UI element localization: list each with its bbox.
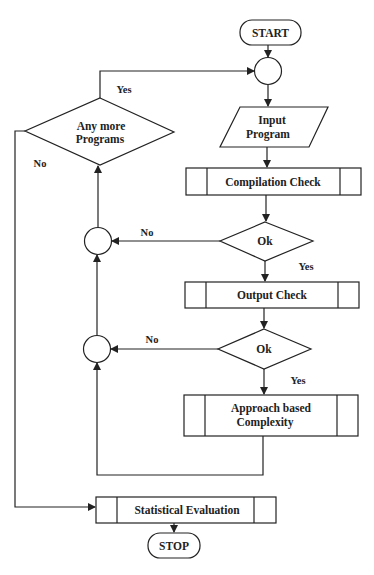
connector-2 [84,336,111,363]
start-label: START [252,27,289,39]
more-label-line2: Programs [76,133,125,146]
ok-decision-2: Ok [218,329,311,369]
input-program-node: Input Program [220,107,328,147]
stop-label: STOP [159,540,189,552]
ok1-no-label: No [141,227,154,238]
start-terminator: START [240,20,301,45]
statistical-evaluation-label: Statistical Evaluation [134,504,240,516]
more-no-label: No [34,158,47,169]
compilation-check-label: Compilation Check [225,176,321,189]
edge-more-no [15,131,95,507]
input-label-line2: Program [246,128,290,141]
ok1-yes-label: Yes [298,261,313,272]
statistical-evaluation-node: Statistical Evaluation [96,497,276,523]
approach-complexity-node: Approach based Complexity [184,395,358,436]
compilation-check-node: Compilation Check [186,168,361,195]
ok2-no-label: No [146,334,159,345]
input-label-line1: Input [258,114,286,127]
ok2-yes-label: Yes [290,375,305,386]
stop-terminator: STOP [148,533,200,558]
more-yes-label: Yes [116,84,131,95]
approach-label-line1: Approach based [231,402,312,415]
more-label-line1: Any more [77,120,126,133]
ok-decision-1: Ok [220,222,313,261]
any-more-programs-decision: Any more Programs [25,98,174,165]
connector-1 [85,228,112,255]
approach-label-line2: Complexity [237,416,294,429]
ok1-label: Ok [257,235,273,247]
ok2-label: Ok [256,343,272,355]
connector-top [255,58,282,85]
output-check-label: Output Check [237,289,308,302]
flowchart: START Input Program Compilation Check Ok… [0,0,374,575]
output-check-node: Output Check [185,282,359,308]
